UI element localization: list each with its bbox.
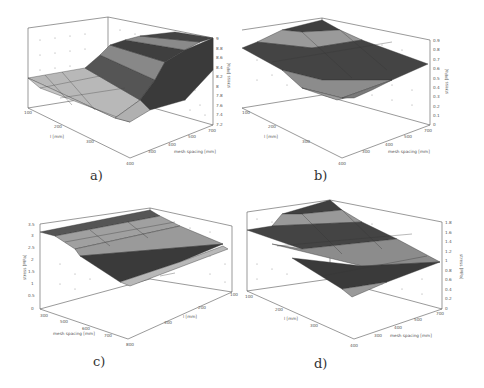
svg-text:0: 0	[31, 306, 34, 311]
svg-text:mesh spacing [mm]: mesh spacing [mm]	[53, 331, 95, 336]
svg-text:700: 700	[436, 311, 444, 316]
svg-text:l [mm]: l [mm]	[264, 134, 278, 139]
svg-text:1.6: 1.6	[445, 230, 452, 235]
svg-text:400: 400	[350, 343, 358, 348]
svg-text:400: 400	[126, 161, 134, 166]
svg-text:800: 800	[126, 342, 134, 347]
svg-text:stress [MPa]: stress [MPa]	[459, 254, 464, 280]
svg-text:8.4: 8.4	[216, 65, 223, 70]
svg-text:3: 3	[31, 233, 34, 238]
svg-text:0.5: 0.5	[433, 76, 440, 81]
svg-text:200: 200	[54, 124, 62, 129]
svg-text:0.9: 0.9	[433, 38, 440, 43]
svg-text:l [mm]: l [mm]	[183, 314, 197, 319]
svg-text:7.8: 7.8	[216, 93, 223, 98]
svg-text:l [mm]: l [mm]	[284, 316, 298, 321]
svg-text:1: 1	[31, 281, 34, 286]
svg-text:1.4: 1.4	[445, 239, 452, 244]
svg-text:1.5: 1.5	[28, 269, 35, 274]
panel-caption-b: b)	[314, 168, 327, 183]
subplot-d: 1.81.61.4 1.210.8 0.60.40.20 stress [MPa…	[242, 194, 484, 388]
subplot-b: 0.90.80.7 0.60.50.4 0.30.20.10 stress [M…	[242, 0, 484, 194]
svg-text:0.6: 0.6	[433, 66, 440, 71]
svg-text:stress [MPa]: stress [MPa]	[226, 62, 231, 88]
svg-text:8.2: 8.2	[216, 74, 223, 79]
svg-text:300: 300	[40, 313, 48, 318]
svg-text:0.4: 0.4	[433, 85, 440, 90]
svg-text:9: 9	[216, 36, 219, 41]
svg-text:300: 300	[86, 139, 94, 144]
svg-text:2: 2	[31, 257, 34, 262]
svg-text:1.8: 1.8	[445, 220, 452, 225]
surface-plot-a: 98.88.6 8.48.28 7.87.67.47.2 stress [MPa…	[0, 0, 242, 194]
surface-plot-c: 3.532.5 21.51 0.50 stress [MPa] 30050060…	[0, 194, 242, 388]
svg-text:stress [MPa]: stress [MPa]	[22, 254, 27, 280]
svg-text:0.8: 0.8	[445, 268, 452, 273]
svg-text:700: 700	[424, 128, 432, 133]
surface-plot-d: 1.81.61.4 1.210.8 0.60.40.20 stress [MPa…	[242, 194, 484, 388]
svg-text:0: 0	[433, 122, 436, 127]
surface-plot-b: 0.90.80.7 0.60.50.4 0.30.20.10 stress [M…	[242, 0, 484, 194]
svg-text:300: 300	[362, 149, 370, 154]
svg-text:0.5: 0.5	[28, 293, 35, 298]
svg-text:0.6: 0.6	[445, 277, 452, 282]
svg-text:mesh spacing [mm]: mesh spacing [mm]	[388, 149, 430, 154]
svg-text:400: 400	[338, 161, 346, 166]
svg-text:0.3: 0.3	[433, 94, 440, 99]
svg-text:8.6: 8.6	[216, 55, 223, 60]
svg-text:200: 200	[275, 307, 283, 312]
svg-text:400: 400	[385, 142, 393, 147]
svg-text:300: 300	[374, 333, 382, 338]
svg-text:300: 300	[310, 323, 318, 328]
svg-text:0.2: 0.2	[433, 104, 440, 109]
svg-text:mesh spacing [mm]: mesh spacing [mm]	[174, 149, 216, 154]
svg-text:500: 500	[60, 319, 68, 324]
svg-text:400: 400	[168, 142, 176, 147]
svg-text:100: 100	[230, 292, 238, 297]
panel-caption-d: d)	[314, 356, 327, 371]
svg-text:300: 300	[164, 320, 172, 325]
svg-text:500: 500	[188, 134, 196, 139]
svg-text:7.4: 7.4	[216, 112, 223, 117]
svg-text:200: 200	[198, 305, 206, 310]
svg-text:100: 100	[24, 110, 32, 115]
panel-caption-c: c)	[93, 354, 105, 369]
svg-text:100: 100	[245, 294, 253, 299]
svg-text:0.2: 0.2	[445, 296, 452, 301]
svg-text:500: 500	[414, 317, 422, 322]
svg-text:700: 700	[208, 128, 216, 133]
svg-text:100: 100	[242, 110, 250, 115]
svg-text:stress [MPa]: stress [MPa]	[444, 68, 449, 94]
svg-text:7.6: 7.6	[216, 103, 223, 108]
svg-text:7.2: 7.2	[216, 122, 223, 127]
panel-caption-a: a)	[90, 168, 103, 183]
svg-text:1.2: 1.2	[445, 249, 452, 254]
svg-text:3.5: 3.5	[28, 222, 35, 227]
svg-text:l [mm]: l [mm]	[50, 134, 64, 139]
svg-text:0.1: 0.1	[433, 113, 440, 118]
subplot-a: 98.88.6 8.48.28 7.87.67.47.2 stress [MPa…	[0, 0, 242, 194]
svg-text:200: 200	[268, 124, 276, 129]
svg-text:0.8: 0.8	[433, 47, 440, 52]
svg-text:8: 8	[216, 84, 219, 89]
svg-text:1: 1	[445, 258, 448, 263]
svg-text:700: 700	[104, 333, 112, 338]
svg-text:2.5: 2.5	[28, 245, 35, 250]
svg-text:8.8: 8.8	[216, 46, 223, 51]
svg-text:500: 500	[404, 134, 412, 139]
svg-text:mesh spacing [mm]: mesh spacing [mm]	[390, 333, 432, 338]
svg-text:0.7: 0.7	[433, 57, 440, 62]
subplot-c: 3.532.5 21.51 0.50 stress [MPa] 30050060…	[0, 194, 242, 388]
svg-text:300: 300	[302, 139, 310, 144]
svg-text:400: 400	[394, 325, 402, 330]
svg-text:0.4: 0.4	[445, 287, 452, 292]
svg-text:300: 300	[148, 149, 156, 154]
svg-text:0: 0	[445, 306, 448, 311]
